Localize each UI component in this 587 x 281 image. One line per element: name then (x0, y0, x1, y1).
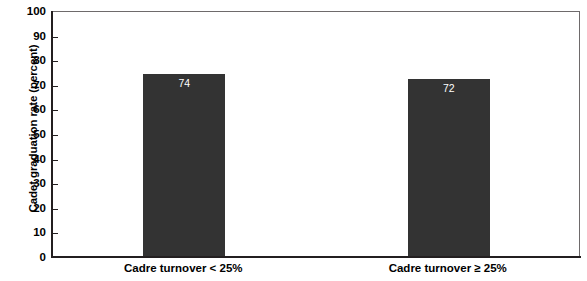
bar-value-label: 72 (408, 82, 490, 94)
bar: 74 (143, 74, 225, 256)
y-axis-tick-mark (52, 209, 58, 210)
y-axis-tick-label: 50 (0, 128, 46, 140)
bar-chart: Cadet graduation rate (percent) 01020304… (0, 0, 587, 281)
y-axis-tick-mark (52, 86, 58, 87)
y-axis-tick-mark (52, 61, 58, 62)
x-axis-category-label: Cadre turnover < 25% (124, 262, 243, 274)
y-axis-tick-mark (52, 160, 58, 161)
y-axis-tick-mark (52, 233, 58, 234)
bar-value-label: 74 (143, 77, 225, 89)
y-axis-tick-label: 90 (0, 30, 46, 42)
y-axis-tick-mark (52, 135, 58, 136)
y-axis-tick-mark (52, 110, 58, 111)
y-axis-tick-labels: 0102030405060708090100 (0, 0, 46, 281)
y-axis-tick-label: 0 (0, 251, 46, 263)
x-axis-line (51, 256, 581, 258)
y-axis-tick-label: 70 (0, 79, 46, 91)
y-axis-tick-label: 40 (0, 153, 46, 165)
y-axis-tick-label: 100 (0, 5, 46, 17)
y-axis-tick-label: 30 (0, 177, 46, 189)
plot-area: 7472 (51, 11, 580, 257)
x-axis-category-label: Cadre turnover ≥ 25% (389, 262, 507, 274)
y-axis-tick-mark (52, 37, 58, 38)
bar: 72 (408, 79, 490, 256)
y-axis-tick-label: 10 (0, 226, 46, 238)
y-axis-tick-label: 80 (0, 54, 46, 66)
y-axis-tick-label: 20 (0, 202, 46, 214)
y-axis-tick-label: 60 (0, 103, 46, 115)
y-axis-tick-mark (52, 184, 58, 185)
